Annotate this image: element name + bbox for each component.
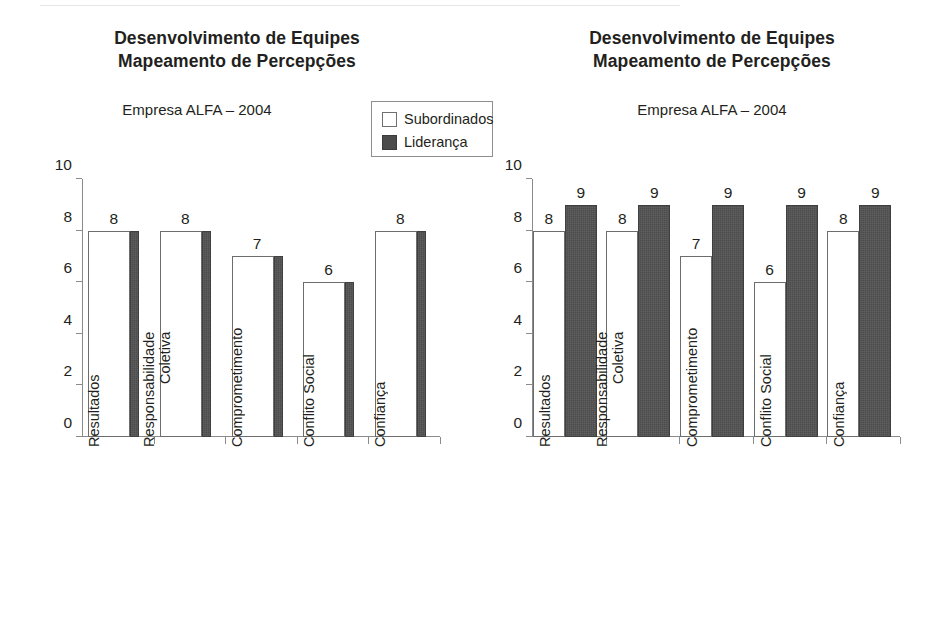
y-axis-tick bbox=[76, 230, 82, 231]
x-axis-category-label: Conflito Social bbox=[301, 354, 317, 447]
bar-value-label: 7 bbox=[253, 236, 262, 251]
bar-value-label: 8 bbox=[396, 211, 405, 226]
y-axis-tick-label: 6 bbox=[513, 260, 522, 275]
x-axis-category-label: Comprometimento bbox=[229, 328, 245, 447]
x-axis-category-label: Responsabilidade Coletiva bbox=[141, 332, 173, 447]
bar-value-label-subordinados: 8 bbox=[839, 211, 848, 226]
y-axis-tick-label: 4 bbox=[63, 312, 72, 327]
bar-lideranca bbox=[712, 205, 744, 437]
y-axis-tick-label: 10 bbox=[55, 157, 72, 172]
x-axis-category-label: Resultados bbox=[86, 374, 102, 447]
plot-area-left: 02468108Resultados8Responsabilidade Cole… bbox=[82, 179, 440, 437]
bar-lideranca bbox=[130, 231, 139, 437]
bar-value-label-lideranca: 9 bbox=[871, 185, 880, 200]
chart-title-right-line2: Mapeamento de Percepções bbox=[475, 50, 949, 73]
y-axis-tick-label: 0 bbox=[513, 415, 522, 430]
y-axis-tick-label: 4 bbox=[513, 312, 522, 327]
bar-value-label-lideranca: 9 bbox=[724, 185, 733, 200]
bar-value-label-lideranca: 9 bbox=[576, 185, 585, 200]
x-axis-tick bbox=[679, 437, 680, 444]
y-axis-tick bbox=[526, 333, 532, 334]
x-axis-tick bbox=[753, 437, 754, 444]
bar-lideranca bbox=[638, 205, 670, 437]
y-axis-tick bbox=[76, 384, 82, 385]
x-axis-tick bbox=[826, 437, 827, 444]
chart-panel-left: Desenvolvimento de Equipes Mapeamento de… bbox=[0, 0, 474, 638]
x-axis-tick bbox=[297, 437, 298, 444]
bar-value-label-subordinados: 8 bbox=[544, 211, 553, 226]
bar-lideranca bbox=[565, 205, 597, 437]
bar-value-label-lideranca: 9 bbox=[650, 185, 659, 200]
chart-title-right-line1: Desenvolvimento de Equipes bbox=[589, 28, 835, 48]
x-axis-tick bbox=[440, 437, 441, 444]
legend-swatch-subordinados-icon bbox=[382, 112, 397, 127]
x-axis-category-label: Responsabilidade Coletiva bbox=[594, 332, 626, 447]
y-axis-tick-label: 0 bbox=[63, 415, 72, 430]
y-axis-left bbox=[82, 179, 83, 437]
x-axis-tick bbox=[225, 437, 226, 444]
scanned-page: Desenvolvimento de Equipes Mapeamento de… bbox=[0, 0, 949, 638]
y-axis-tick-label: 10 bbox=[505, 157, 522, 172]
y-axis-tick-label: 2 bbox=[63, 363, 72, 378]
bar-value-label-subordinados: 7 bbox=[692, 236, 701, 251]
y-axis-tick-label: 6 bbox=[63, 260, 72, 275]
chart-panel-right: Desenvolvimento de Equipes Mapeamento de… bbox=[475, 0, 949, 638]
y-axis-tick bbox=[76, 436, 82, 437]
x-axis-category-label: Confiança bbox=[831, 382, 847, 447]
y-axis-tick bbox=[526, 230, 532, 231]
y-axis-tick-label: 8 bbox=[513, 209, 522, 224]
bar-value-label: 6 bbox=[324, 262, 333, 277]
bar-value-label-subordinados: 6 bbox=[765, 262, 774, 277]
chart-subtitle-left: Empresa ALFA – 2004 bbox=[52, 101, 342, 118]
y-axis-tick bbox=[526, 436, 532, 437]
bar-lideranca bbox=[274, 256, 283, 437]
bar-lideranca bbox=[345, 282, 354, 437]
chart-title-left-line1: Desenvolvimento de Equipes bbox=[114, 28, 360, 48]
chart-title-left: Desenvolvimento de Equipes Mapeamento de… bbox=[0, 27, 474, 73]
bar-lideranca bbox=[202, 231, 211, 437]
legend-swatch-lideranca-icon bbox=[382, 135, 397, 150]
y-axis-tick bbox=[526, 281, 532, 282]
chart-subtitle-right: Empresa ALFA – 2004 bbox=[475, 101, 949, 118]
bar-lideranca bbox=[859, 205, 891, 437]
x-axis-category-label: Comprometimento bbox=[684, 328, 700, 447]
chart-title-left-line2: Mapeamento de Percepções bbox=[0, 50, 474, 73]
y-axis-tick bbox=[76, 333, 82, 334]
x-axis-category-label: Confiança bbox=[372, 382, 388, 447]
y-axis-tick bbox=[526, 384, 532, 385]
bar-value-label-lideranca: 9 bbox=[797, 185, 806, 200]
x-axis-tick bbox=[368, 437, 369, 444]
bar-value-label-subordinados: 8 bbox=[618, 211, 627, 226]
y-axis-tick-label: 8 bbox=[63, 209, 72, 224]
x-axis-category-label: Conflito Social bbox=[758, 354, 774, 447]
bar-value-label: 8 bbox=[181, 211, 190, 226]
x-axis-tick bbox=[900, 437, 901, 444]
legend-label-lideranca: Liderança bbox=[404, 135, 468, 150]
y-axis-tick bbox=[76, 281, 82, 282]
bar-value-label: 8 bbox=[109, 211, 118, 226]
y-axis-tick-label: 2 bbox=[513, 363, 522, 378]
y-axis-tick bbox=[526, 178, 532, 179]
bar-lideranca bbox=[786, 205, 818, 437]
bar-lideranca bbox=[417, 231, 426, 437]
plot-area-right: 024681089Resultados89Responsabilidade Co… bbox=[532, 179, 900, 437]
x-axis-category-label: Resultados bbox=[537, 374, 553, 447]
chart-title-right: Desenvolvimento de Equipes Mapeamento de… bbox=[475, 27, 949, 73]
y-axis-tick bbox=[76, 178, 82, 179]
